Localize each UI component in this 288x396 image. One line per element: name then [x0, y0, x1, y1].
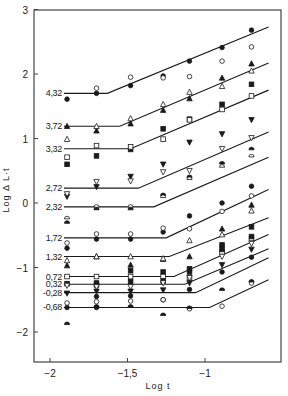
open-square-marker: [161, 274, 166, 279]
open-circle-marker: [65, 241, 70, 246]
filled-triangle-up-marker: [219, 226, 224, 231]
filled-half-circle-marker: [128, 305, 133, 308]
fit-line-5: [64, 189, 269, 237]
series-8-points: [64, 234, 254, 290]
filled-half-circle-marker: [249, 279, 254, 282]
series-3-points: [64, 117, 254, 199]
open-circle-marker: [249, 194, 254, 199]
series-0-points: [65, 28, 254, 102]
series-label: 3,32: [46, 144, 63, 154]
fit-line-0: [64, 27, 269, 93]
series-4-points: [64, 147, 254, 223]
open-triangle-up-marker: [64, 136, 69, 141]
open-triangle-down-marker: [94, 179, 99, 184]
open-circle-marker: [128, 299, 133, 304]
y-tick-label: 2: [22, 69, 28, 80]
filled-circle-marker: [249, 255, 254, 260]
filled-circle-marker: [220, 201, 225, 206]
open-triangle-down-marker: [160, 170, 165, 175]
filled-triangle-up-marker: [64, 263, 69, 268]
filled-square-marker: [249, 82, 254, 87]
open-triangle-up-marker: [249, 208, 254, 213]
open-triangle-up-marker: [249, 68, 254, 73]
series-label: 1,72: [46, 233, 63, 243]
fit-lines: [64, 27, 269, 308]
filled-half-circle-marker: [249, 147, 254, 150]
open-triangle-down-marker: [187, 168, 192, 173]
open-circle-marker: [220, 304, 225, 309]
open-square-marker: [187, 117, 192, 122]
y-tick-label: 3: [22, 5, 28, 16]
series-label: 1,32: [46, 252, 63, 262]
open-triangle-down-marker: [249, 241, 254, 246]
open-half-circle-marker: [187, 177, 192, 180]
open-circle-marker: [220, 209, 225, 214]
filled-triangle-down-marker: [249, 117, 254, 122]
series-1-points: [64, 61, 254, 142]
open-triangle-up-marker: [187, 89, 192, 94]
filled-circle-marker: [94, 237, 99, 242]
open-circle-marker: [249, 45, 254, 50]
open-circle-marker: [161, 226, 166, 231]
filled-circle-marker: [128, 237, 133, 242]
series-label: -0,68: [43, 302, 62, 312]
open-circle-marker: [161, 297, 166, 302]
open-half-circle-marker: [249, 154, 254, 157]
open-square-marker: [65, 274, 70, 279]
filled-half-circle-marker: [94, 305, 99, 308]
filled-triangle-down-marker: [187, 140, 192, 145]
open-triangle-up-marker: [64, 258, 69, 263]
open-triangle-down-marker: [219, 254, 224, 259]
open-half-circle-marker: [94, 205, 99, 208]
open-square-marker: [128, 274, 133, 279]
filled-triangle-down-marker: [249, 247, 254, 252]
filled-triangle-down-marker: [64, 291, 69, 296]
series-label: -0,28: [43, 288, 62, 298]
series-label: 2,72: [46, 183, 63, 193]
open-circle-marker: [94, 86, 99, 91]
y-tick-label: −2: [17, 327, 29, 338]
filled-circle-marker: [249, 28, 254, 33]
filled-triangle-down-marker: [219, 132, 224, 137]
open-triangle-up-marker: [128, 116, 133, 121]
filled-circle-marker: [220, 270, 225, 275]
filled-half-circle-marker: [219, 161, 224, 164]
filled-circle-marker: [94, 294, 99, 299]
open-square-marker: [220, 107, 225, 112]
filled-square-marker: [249, 225, 254, 230]
filled-triangle-up-marker: [219, 75, 224, 80]
filled-half-circle-marker: [161, 313, 166, 316]
open-triangle-up-marker: [187, 238, 192, 243]
series-label: 3,72: [46, 121, 63, 131]
x-tick-label: −2: [44, 368, 56, 379]
x-axis-title: Log t: [145, 381, 170, 391]
filled-circle-marker: [187, 287, 192, 292]
open-half-circle-marker: [128, 205, 133, 208]
filled-triangle-up-marker: [187, 254, 192, 259]
open-circle-marker: [128, 232, 133, 237]
filled-circle-marker: [65, 246, 70, 251]
open-square-marker: [94, 274, 99, 279]
filled-half-circle-marker: [64, 322, 69, 325]
filled-square-marker: [128, 279, 133, 284]
filled-square-marker: [249, 234, 254, 239]
y-tick-label: 0: [22, 198, 28, 209]
open-half-circle-marker: [64, 216, 69, 219]
series-labels: 4,323,723,322,722,321,721,320,720,32-0,2…: [43, 88, 62, 312]
series-label: 4,32: [46, 88, 63, 98]
plot-svg: 3210−1−2−2−1,5−1 4,323,723,322,722,321,7…: [0, 0, 288, 396]
filled-triangle-down-marker: [94, 289, 99, 294]
open-triangle-up-marker: [160, 101, 165, 106]
series-10-points: [64, 279, 254, 324]
plot-frame: [34, 10, 281, 362]
filled-circle-marker: [65, 305, 70, 310]
series-label: 2,32: [46, 202, 63, 212]
open-triangle-up-marker: [219, 232, 224, 237]
filled-half-circle-marker: [64, 221, 69, 224]
filled-square-marker: [220, 102, 225, 107]
filled-half-circle-marker: [219, 288, 224, 291]
series-9-points: [64, 247, 254, 302]
filled-square-marker: [220, 243, 225, 248]
filled-half-circle-marker: [187, 306, 192, 309]
filled-square-marker: [94, 154, 99, 159]
